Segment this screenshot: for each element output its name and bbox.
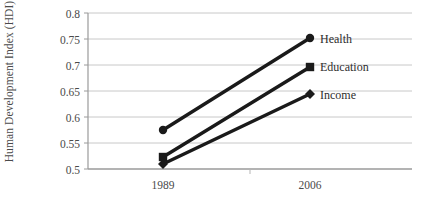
series-label-income: Income xyxy=(320,89,356,101)
series-label-health: Health xyxy=(320,33,352,45)
chart-figure: Human Development Index (HDI) 0.8 0.75 0… xyxy=(0,0,435,219)
series-label-education: Education xyxy=(320,61,369,73)
series-labels: Health Education Income xyxy=(0,0,435,219)
